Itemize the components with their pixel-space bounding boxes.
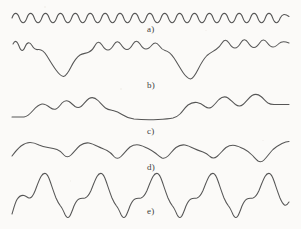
panel-label-b: b) xyxy=(147,80,155,90)
waveform-canvas xyxy=(0,0,301,229)
panel-label-d: d) xyxy=(147,162,155,172)
panel-label-c: c) xyxy=(147,126,154,136)
panel-label-e: e) xyxy=(147,206,154,216)
waveform-figure: a) b) c) d) e) xyxy=(0,0,301,229)
waveform-trace-b xyxy=(13,40,289,79)
waveform-trace-c xyxy=(12,94,289,119)
waveform-trace-a xyxy=(12,13,289,22)
waveform-trace-d xyxy=(12,142,289,162)
panel-label-a: a) xyxy=(147,24,154,34)
